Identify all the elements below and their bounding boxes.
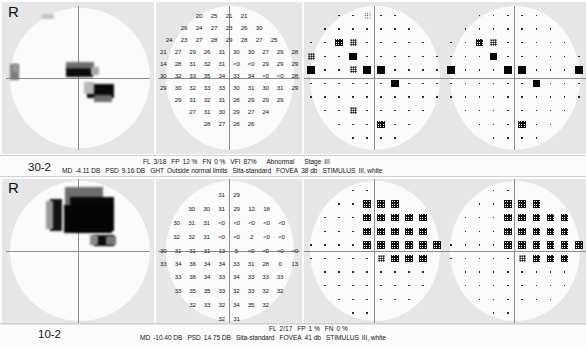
probability-cell bbox=[501, 199, 515, 210]
sensitivity-value: 29 bbox=[229, 108, 244, 115]
sensitivity-value bbox=[171, 120, 186, 127]
p1-symbol-icon bbox=[518, 228, 526, 236]
dot-symbol-icon bbox=[352, 271, 353, 272]
probability-cell bbox=[430, 267, 444, 278]
eye-label-bottom: R bbox=[8, 180, 19, 195]
dot-symbol-icon bbox=[338, 96, 339, 97]
probability-cell bbox=[346, 185, 360, 196]
dot-symbol-icon bbox=[465, 83, 466, 84]
sensitivity-value: 33 bbox=[156, 260, 171, 267]
dot-symbol-icon bbox=[465, 69, 466, 70]
dot-symbol-icon bbox=[352, 285, 353, 286]
probability-cell bbox=[416, 64, 430, 75]
probability-cell bbox=[543, 119, 557, 130]
probability-cell bbox=[472, 253, 486, 264]
sensitivity-value: 32 bbox=[200, 60, 215, 67]
probability-cell bbox=[558, 280, 572, 291]
sensitivity-value bbox=[171, 108, 186, 115]
sensitivity-value: <0 bbox=[259, 219, 274, 226]
dot-symbol-icon bbox=[380, 42, 381, 43]
probability-cell bbox=[346, 10, 360, 21]
defect-blob bbox=[90, 235, 98, 245]
dot-symbol-icon bbox=[493, 244, 494, 245]
probability-cell bbox=[318, 64, 332, 75]
sensitivity-value: <0 bbox=[274, 233, 289, 240]
p1-symbol-icon bbox=[405, 214, 413, 222]
fl-label: FL bbox=[269, 325, 277, 332]
probability-row bbox=[304, 253, 444, 264]
probability-cell bbox=[487, 64, 501, 75]
dot-symbol-icon bbox=[324, 83, 325, 84]
probability-cell bbox=[346, 105, 360, 116]
probability-cell bbox=[332, 294, 346, 305]
fl-value: 3/18 bbox=[154, 158, 167, 165]
dot-symbol-icon bbox=[550, 271, 551, 272]
defect-blob bbox=[64, 205, 112, 233]
probability-cell bbox=[388, 199, 402, 210]
dot-symbol-icon bbox=[338, 83, 339, 84]
probability-cell bbox=[430, 10, 444, 21]
numeric-row: 323332343532 bbox=[156, 301, 302, 308]
probability-cell bbox=[346, 119, 360, 130]
sensitivity-value bbox=[258, 120, 273, 127]
probability-row bbox=[444, 37, 586, 48]
probability-cell bbox=[360, 119, 374, 130]
probability-cell bbox=[458, 132, 472, 143]
probability-cell bbox=[374, 199, 388, 210]
probability-cell bbox=[374, 294, 388, 305]
fn-label: FN bbox=[325, 325, 334, 332]
probability-cell bbox=[472, 78, 486, 89]
p1-symbol-icon bbox=[377, 200, 385, 208]
probability-cell bbox=[515, 105, 529, 116]
dot-symbol-icon bbox=[352, 124, 353, 125]
probability-cell bbox=[388, 239, 402, 250]
dot-symbol-icon bbox=[493, 299, 494, 300]
probability-cell bbox=[529, 239, 543, 250]
sensitivity-value: 33 bbox=[214, 287, 229, 294]
dot-symbol-icon bbox=[338, 110, 339, 111]
dot-symbol-icon bbox=[493, 285, 494, 286]
probability-cell bbox=[430, 132, 444, 143]
probability-cell bbox=[487, 199, 501, 210]
dot-symbol-icon bbox=[436, 56, 437, 57]
probability-cell bbox=[558, 10, 572, 21]
probability-cell bbox=[515, 185, 529, 196]
probability-cell bbox=[572, 199, 586, 210]
sensitivity-value: 24 bbox=[258, 108, 273, 115]
sensitivity-value: 34 bbox=[200, 260, 215, 267]
probability-cell bbox=[543, 92, 557, 103]
dot-symbol-icon bbox=[507, 312, 508, 313]
dot-symbol-icon bbox=[479, 15, 480, 16]
probability-cell bbox=[346, 267, 360, 278]
probability-cell bbox=[515, 24, 529, 35]
dot-symbol-icon bbox=[338, 271, 339, 272]
sensitivity-value: 29 bbox=[273, 60, 288, 67]
probability-cell bbox=[444, 199, 458, 210]
probability-cell bbox=[374, 307, 388, 318]
sensitivity-value: 26 bbox=[237, 24, 252, 31]
dot-symbol-icon bbox=[324, 285, 325, 286]
probability-cell bbox=[501, 253, 515, 264]
probability-cell bbox=[374, 119, 388, 130]
test-pattern-name-10-2: 10-2 bbox=[38, 328, 61, 340]
sensitivity-value: 20 bbox=[192, 12, 207, 19]
p1-symbol-icon bbox=[561, 228, 569, 236]
sensitivity-value: 33 bbox=[200, 84, 215, 91]
p1-symbol-icon bbox=[561, 241, 569, 249]
dot-symbol-icon bbox=[352, 203, 353, 204]
dot-symbol-icon bbox=[479, 28, 480, 29]
stimulus-label: STIMULUS bbox=[326, 334, 359, 341]
sensitivity-value: 30 bbox=[244, 48, 259, 55]
probability-cell bbox=[515, 226, 529, 237]
dot-symbol-icon bbox=[479, 69, 480, 70]
sensitivity-value: 12 bbox=[244, 205, 259, 212]
dot-symbol-icon bbox=[536, 271, 537, 272]
probability-row bbox=[444, 280, 586, 291]
probability-cell bbox=[501, 78, 515, 89]
dot-symbol-icon bbox=[380, 15, 381, 16]
visual-field-report: R 20252121262427232630242327282928272521… bbox=[0, 0, 586, 347]
probability-cell bbox=[332, 105, 346, 116]
p1-symbol-icon bbox=[419, 228, 427, 236]
dot-symbol-icon bbox=[493, 137, 494, 138]
probability-row bbox=[304, 105, 444, 116]
